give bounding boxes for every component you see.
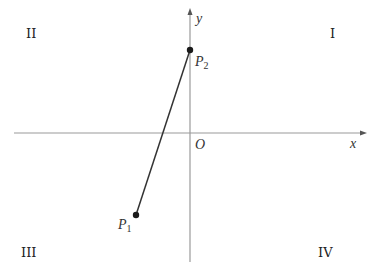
point-p2-label: P2 [194,54,209,71]
x-axis-arrow-icon [360,131,367,136]
y-axis-arrow-icon [188,8,193,15]
coordinate-plane-diagram: x y O II I III IV P2 P1 [0,0,376,273]
quadrant-label-I: I [330,26,335,41]
point-p1-name: P [117,217,127,232]
point-p2-name: P [194,54,204,69]
origin-label: O [195,137,205,152]
y-axis [188,8,193,262]
x-axis-label: x [349,136,357,151]
point-p2-subscript: 2 [204,60,209,71]
point-p2 [187,47,193,53]
point-p1 [133,212,139,218]
quadrant-label-III: III [21,245,36,260]
quadrant-label-II: II [26,26,36,41]
point-p1-subscript: 1 [127,223,132,234]
y-axis-label: y [194,11,203,26]
point-p1-label: P1 [117,217,132,234]
quadrant-label-IV: IV [318,245,333,260]
